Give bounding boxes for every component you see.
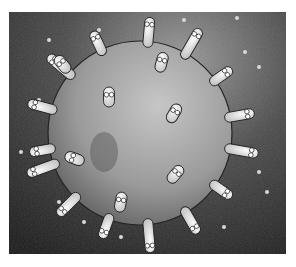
creature-eye — [145, 243, 150, 248]
planet-illustration — [9, 12, 286, 254]
creature-eye — [33, 146, 38, 151]
speck — [119, 235, 123, 239]
creature-eye — [104, 92, 109, 97]
creature-eye — [248, 152, 253, 157]
speck — [19, 150, 23, 154]
illustration — [9, 12, 286, 254]
speck — [265, 190, 269, 194]
speck — [182, 18, 186, 22]
creature-eye — [249, 147, 254, 152]
speck — [257, 170, 261, 174]
speck — [257, 65, 261, 69]
surface-creature — [104, 87, 115, 107]
creature-eye — [121, 198, 126, 203]
speck — [235, 16, 239, 20]
creature-eye — [150, 243, 155, 248]
creature-eye — [149, 22, 154, 27]
planet-shadow-spot — [90, 132, 118, 172]
creature-eye — [244, 109, 249, 114]
speck — [47, 38, 51, 42]
speck — [243, 50, 247, 54]
rim-creature — [143, 17, 156, 48]
speck — [57, 200, 61, 204]
creature-eye — [145, 22, 150, 27]
creature-eye — [116, 197, 121, 202]
creature-eye — [109, 92, 114, 97]
speck — [82, 220, 86, 224]
speck — [222, 225, 226, 229]
creature-eye — [34, 151, 39, 156]
creature-eye — [245, 114, 250, 119]
